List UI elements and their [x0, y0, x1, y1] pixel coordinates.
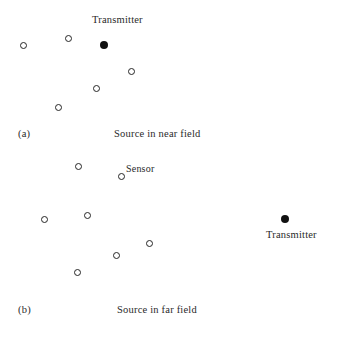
transmitter-label-a: Transmitter	[92, 14, 143, 25]
panel-far-field: Sensor Transmitter (b) Source in far fie…	[0, 150, 340, 337]
sensor-marker	[74, 269, 81, 276]
sensor-marker	[65, 35, 72, 42]
panel-near-field: Transmitter (a) Source in near field	[0, 0, 340, 150]
sensor-label-b: Sensor	[126, 163, 154, 174]
sensor-marker	[20, 42, 27, 49]
panel-caption-b: Source in far field	[117, 304, 197, 315]
transmitter-marker-a	[100, 41, 108, 49]
sensor-marker	[113, 252, 120, 259]
sensor-marker	[118, 173, 125, 180]
sensor-marker	[84, 212, 91, 219]
sensor-marker	[146, 240, 153, 247]
figure-canvas: Transmitter (a) Source in near field Sen…	[0, 0, 340, 337]
panel-caption-a: Source in near field	[114, 128, 201, 139]
panel-tag-b: (b)	[18, 304, 31, 315]
sensor-marker	[55, 104, 62, 111]
transmitter-label-b: Transmitter	[266, 229, 317, 240]
sensor-marker	[93, 85, 100, 92]
sensor-marker	[128, 68, 135, 75]
transmitter-marker-b	[281, 215, 289, 223]
panel-tag-a: (a)	[18, 128, 30, 139]
sensor-marker	[75, 163, 82, 170]
sensor-marker	[41, 216, 48, 223]
